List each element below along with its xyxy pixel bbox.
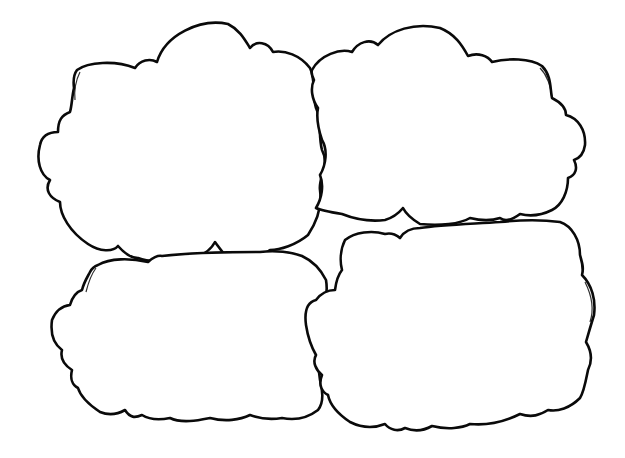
cloud-top-right (312, 26, 585, 225)
cloud-top-left (38, 23, 324, 261)
cloud-bottom-left (52, 251, 327, 421)
cloud-bottom-right (305, 221, 594, 431)
cloud-sheet (0, 0, 625, 458)
